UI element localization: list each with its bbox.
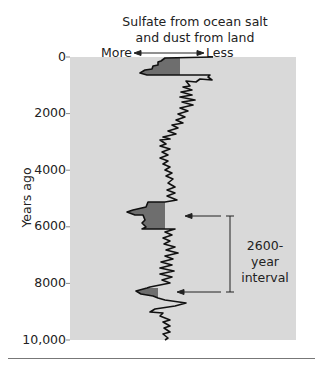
y-tick-2000: 2000 bbox=[6, 105, 66, 120]
y-tick-10000: 10,000 bbox=[6, 332, 66, 347]
y-tick-0: 0 bbox=[6, 49, 66, 64]
y-tick-6000: 6000 bbox=[6, 218, 66, 233]
y-tick-8000: 8000 bbox=[6, 275, 66, 290]
y-tick-4000: 4000 bbox=[6, 162, 66, 177]
figure-divider bbox=[8, 358, 315, 359]
interval-note: 2600-year interval bbox=[234, 238, 296, 286]
more-less-arrow-icon bbox=[134, 51, 204, 56]
note-line-1: 2600-year bbox=[234, 238, 296, 270]
note-line-2: interval bbox=[234, 270, 296, 286]
plot-area bbox=[70, 57, 296, 340]
